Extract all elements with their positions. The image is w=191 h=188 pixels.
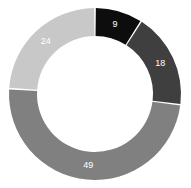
donut-slices-group bbox=[9, 8, 181, 180]
donut-chart-svg: 9184924 bbox=[0, 0, 191, 188]
donut-slice[interactable] bbox=[127, 22, 181, 104]
donut-slice-label: 18 bbox=[155, 58, 165, 68]
donut-slice-label: 24 bbox=[41, 36, 51, 46]
donut-slice-label: 49 bbox=[83, 160, 93, 170]
donut-chart: 9184924 bbox=[0, 0, 191, 188]
donut-slice-label: 9 bbox=[113, 19, 118, 29]
donut-slice[interactable] bbox=[9, 8, 94, 90]
donut-slice[interactable] bbox=[9, 89, 180, 180]
